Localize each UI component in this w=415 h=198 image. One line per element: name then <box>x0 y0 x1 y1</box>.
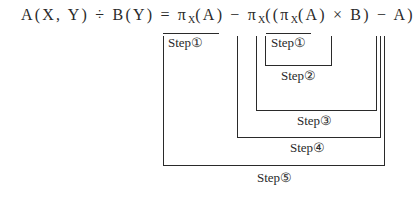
step2-bottom <box>265 65 332 66</box>
projection-symbol-1: π <box>178 6 188 23</box>
step1-inner-label: Step① <box>271 35 306 51</box>
step3-bottom <box>256 110 377 111</box>
projection-subscript-2: X <box>258 14 265 25</box>
projection-arg-3: (A) × B) − A) <box>298 6 415 23</box>
formula-lhs: A(X, Y) ÷ B(Y) <box>21 6 154 23</box>
step4-left <box>237 36 238 137</box>
step3-left <box>256 36 257 110</box>
division-formula: A(X, Y) ÷ B(Y) = πX(A) − πX((πX(A) × B) … <box>21 6 415 24</box>
step3-right <box>376 36 377 111</box>
step4-bottom <box>237 137 381 138</box>
formula-equals: = <box>154 6 178 23</box>
projection-subscript-1: X <box>188 14 195 25</box>
step5-label: Step⑤ <box>257 170 292 186</box>
step5-bottom <box>163 165 385 166</box>
projection-arg-1: (A) − <box>195 6 247 23</box>
projection-subscript-3: X <box>291 14 298 25</box>
step2-left <box>265 36 266 65</box>
step5-left <box>163 36 164 165</box>
step4-right <box>380 36 381 138</box>
projection-symbol-3: π <box>280 6 290 23</box>
step4-label: Step④ <box>290 140 325 156</box>
step3-label: Step③ <box>297 113 332 129</box>
step1-inner-overline <box>266 33 311 34</box>
projection-symbol-2: π <box>248 6 258 23</box>
step2-label: Step② <box>281 68 316 84</box>
step1-outer-overline <box>163 33 219 34</box>
step5-right <box>384 36 385 166</box>
formula-paren: (( <box>265 6 280 23</box>
step1-outer-label: Step① <box>168 35 203 51</box>
step2-right <box>331 36 332 66</box>
